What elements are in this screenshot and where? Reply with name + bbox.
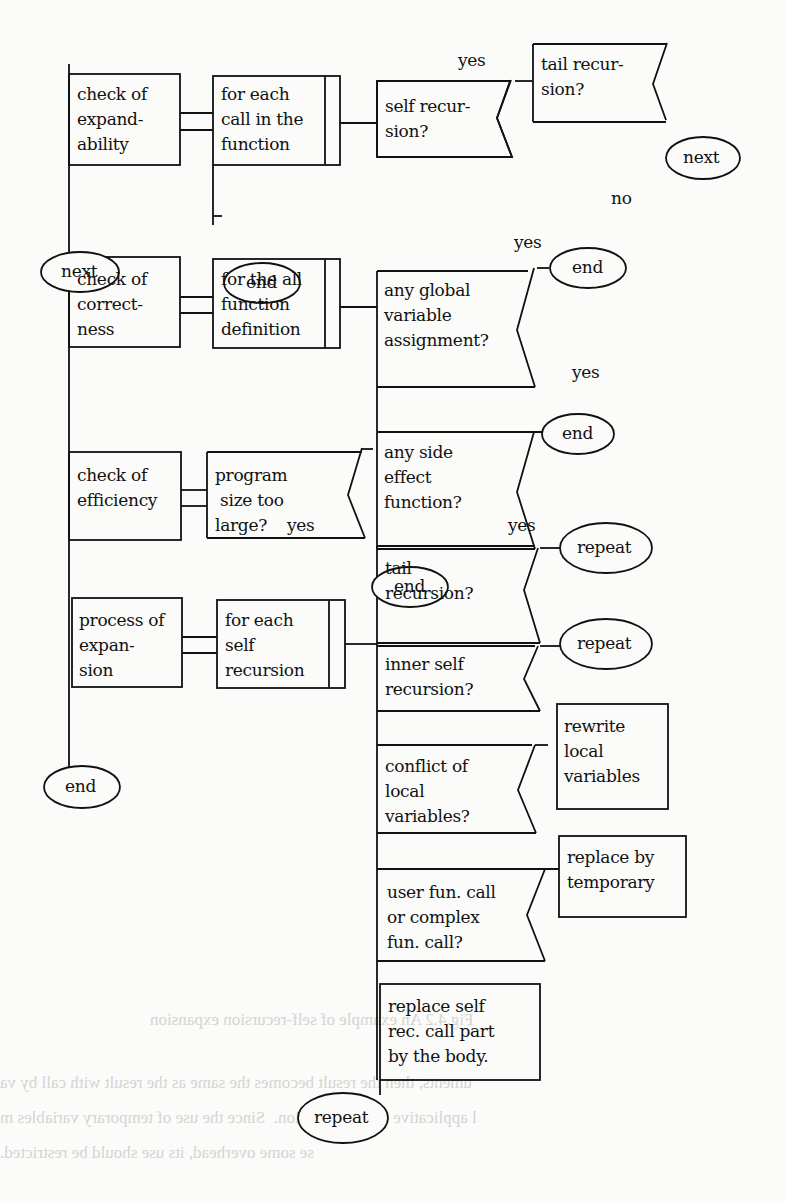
yes-label-program-size: yes xyxy=(287,513,315,538)
loop-for-each-self-recursion: for each self recursion xyxy=(225,608,304,683)
decision-conflict-local-variables: conflict of local variables? xyxy=(385,754,470,829)
no-label: no xyxy=(611,186,632,211)
decision-inner-self-recursion: inner self recursion? xyxy=(385,652,473,702)
decision-tail-recursion-top: tail recur- sion? xyxy=(541,52,623,102)
process-replace-body: replace self rec. call part by the body. xyxy=(388,994,494,1069)
decision-global-variable: any global variable assignment? xyxy=(384,278,489,353)
decision-program-size: program size too large? xyxy=(215,463,287,538)
terminal-end-for-each: end xyxy=(246,270,277,295)
action-replace-by-temporary: replace by temporary xyxy=(567,845,654,895)
decision-self-recursion: self recur- sion? xyxy=(385,94,470,144)
terminal-repeat-inner: repeat xyxy=(577,631,631,656)
stage-check-expandability: check of expand- ability xyxy=(77,82,147,157)
terminal-repeat-tail: repeat xyxy=(577,535,631,560)
yes-label-self-recursion: yes xyxy=(458,48,486,73)
terminal-repeat-bottom: repeat xyxy=(314,1105,368,1130)
decision-side-effect: any side effect function? xyxy=(384,440,462,515)
yes-label-side-effect: yes xyxy=(572,360,600,385)
yes-label-global: yes xyxy=(514,230,542,255)
stage-check-efficiency: check of efficiency xyxy=(77,463,157,513)
terminal-next-right: next xyxy=(683,145,719,170)
stage-process-expansion: process of expan- sion xyxy=(79,608,164,683)
yes-label-tail-recursion: yes xyxy=(508,513,536,538)
loop-for-each-call: for each call in the function xyxy=(221,82,303,157)
action-rewrite-local-variables: rewrite local variables xyxy=(564,714,640,789)
terminal-end-side-effect: end xyxy=(562,421,593,446)
terminal-end-global: end xyxy=(572,255,603,280)
flowchart-self-recursion-expansion: Fig.4.2 An example of self-recursion exp… xyxy=(0,0,785,1201)
terminal-next-left: next xyxy=(61,259,97,284)
terminal-end-left: end xyxy=(65,774,96,799)
terminal-end-program-size: end xyxy=(394,574,425,599)
decision-user-fun-call: user fun. call or complex fun. call? xyxy=(387,880,496,955)
